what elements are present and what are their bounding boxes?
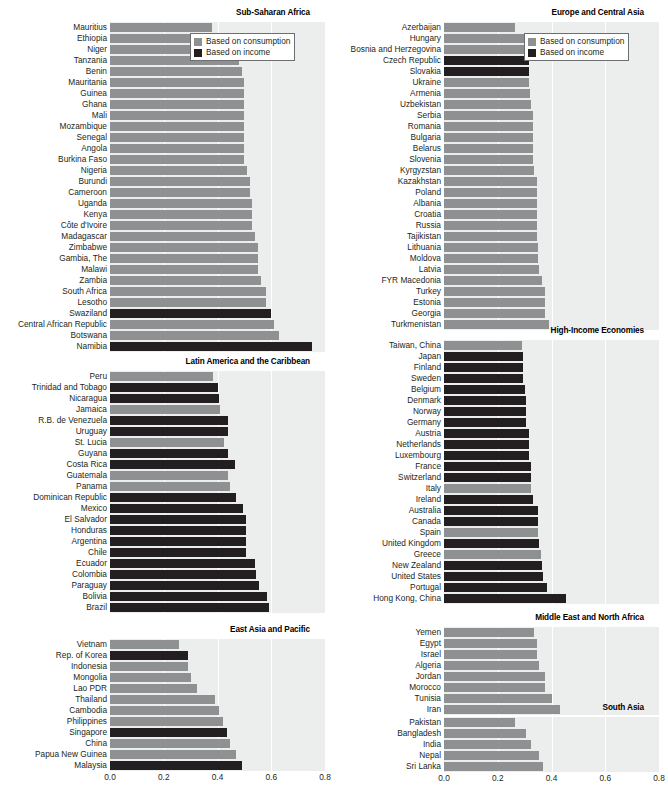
bar-consumption xyxy=(444,740,531,749)
bar-income xyxy=(110,504,243,513)
category-label: Austria xyxy=(415,428,441,439)
category-label: China xyxy=(85,738,107,749)
category-label: Bulgaria xyxy=(411,132,441,143)
category-label: Argentina xyxy=(71,536,107,547)
category-label: Sri Lanka xyxy=(406,761,441,772)
bar-consumption xyxy=(444,89,530,98)
category-label: Albania xyxy=(413,198,441,209)
bar-consumption xyxy=(110,640,179,649)
bar-consumption xyxy=(444,639,537,648)
bar-consumption xyxy=(110,78,244,87)
category-label: United Kingdom xyxy=(382,538,441,549)
bar-row: Switzerland xyxy=(444,472,659,483)
bar-row: Portugal xyxy=(444,582,659,593)
bar-income xyxy=(444,67,529,76)
bar-row: Guyana xyxy=(110,448,325,459)
category-label: Russia xyxy=(416,220,441,231)
category-label: Taiwan, China xyxy=(389,340,441,351)
category-label: Guinea xyxy=(80,88,107,99)
bar-row: Guatemala xyxy=(110,470,325,481)
bar-row: Cambodia xyxy=(110,705,325,716)
bar-row: Yemen xyxy=(444,627,659,638)
bar-row: Ukraine xyxy=(444,77,659,88)
bar-row: Kazakhstan xyxy=(444,176,659,187)
bar-row: Uzbekistan xyxy=(444,99,659,110)
plot-area: PeruTrinidad and TobagoNicaraguaJamaicaR… xyxy=(110,371,325,613)
panel-south-asia: South AsiaPakistanBangladeshIndiaNepalSr… xyxy=(334,703,668,786)
category-label: Hungary xyxy=(410,33,441,44)
bar-row: Netherlands xyxy=(444,439,659,450)
axis-tick-label: 0.8 xyxy=(319,772,331,782)
legend: Based on consumptionBased on income xyxy=(524,33,629,61)
bar-row: Sri Lanka xyxy=(444,761,659,772)
bar-income xyxy=(110,427,228,436)
bar-row: FYR Macedonia xyxy=(444,275,659,286)
bar-consumption xyxy=(110,471,228,480)
category-label: Lao PDR xyxy=(73,683,107,694)
bar-income xyxy=(444,385,525,394)
bar-consumption xyxy=(110,320,274,329)
category-label: Cambodia xyxy=(69,705,107,716)
bar-row: Uruguay xyxy=(110,426,325,437)
panel-title: Middle East and North Africa xyxy=(535,613,644,622)
legend-swatch-consumption-icon xyxy=(194,38,202,46)
bar-consumption xyxy=(444,729,526,738)
bar-consumption xyxy=(110,67,242,76)
category-label: Lesotho xyxy=(77,297,107,308)
category-label: Zimbabwe xyxy=(69,242,107,253)
category-label: Mauritania xyxy=(68,77,107,88)
bar-income xyxy=(444,583,547,592)
bar-row: Senegal xyxy=(110,132,325,143)
category-label: Chile xyxy=(88,547,107,558)
category-label: St. Lucia xyxy=(75,437,107,448)
category-label: FYR Macedonia xyxy=(382,275,442,286)
category-label: Costa Rica xyxy=(66,459,107,470)
bar-row: Norway xyxy=(444,406,659,417)
bar-income xyxy=(444,418,526,427)
bar-consumption xyxy=(110,717,223,726)
bar-row: R.B. de Venezuela xyxy=(110,415,325,426)
category-label: Switzerland xyxy=(398,472,441,483)
plot-area: MauritiusEthiopiaNigerTanzaniaBeninMauri… xyxy=(110,22,325,352)
category-label: Guyana xyxy=(78,448,107,459)
x-axis: 0.00.20.40.60.8 xyxy=(110,771,325,785)
category-label: South Africa xyxy=(62,286,107,297)
bar-consumption xyxy=(110,405,220,414)
bar-row: Malaysia xyxy=(110,760,325,771)
category-label: Israel xyxy=(421,649,441,660)
bar-row: Bolivia xyxy=(110,591,325,602)
bar-consumption xyxy=(444,672,545,681)
bar-consumption xyxy=(444,144,533,153)
bar-consumption xyxy=(110,662,188,671)
panel-europe-central-asia: Europe and Central AsiaAzerbaijanHungary… xyxy=(334,8,668,330)
axis-tick-label: 0.2 xyxy=(158,772,170,782)
bar-consumption xyxy=(444,243,538,252)
bar-consumption xyxy=(444,188,537,197)
legend: Based on consumptionBased on income xyxy=(190,33,295,61)
bar-row: Panama xyxy=(110,481,325,492)
bar-income xyxy=(444,363,523,372)
bar-row: Lithuania xyxy=(444,242,659,253)
category-label: Bangladesh xyxy=(397,728,441,739)
category-label: Latvia xyxy=(419,264,441,275)
category-label: Burkina Faso xyxy=(58,154,107,165)
bar-consumption xyxy=(444,298,545,307)
bar-row: Thailand xyxy=(110,694,325,705)
bar-row: Mozambique xyxy=(110,121,325,132)
bar-consumption xyxy=(444,528,538,537)
category-label: Azerbaijan xyxy=(402,22,441,33)
bar-consumption xyxy=(444,254,538,263)
category-label: Uganda xyxy=(78,198,107,209)
bar-row: Croatia xyxy=(444,209,659,220)
bar-row: Armenia xyxy=(444,88,659,99)
category-label: Burundi xyxy=(78,176,107,187)
category-label: Yemen xyxy=(415,627,441,638)
category-label: Nepal xyxy=(419,750,441,761)
category-label: Niger xyxy=(87,44,107,55)
bar-row: Sweden xyxy=(444,373,659,384)
bar-consumption xyxy=(110,684,197,693)
bar-consumption xyxy=(444,661,539,670)
category-label: Uruguay xyxy=(76,426,107,437)
plot-area: PakistanBangladeshIndiaNepalSri Lanka xyxy=(444,717,659,772)
category-label: Colombia xyxy=(72,569,107,580)
